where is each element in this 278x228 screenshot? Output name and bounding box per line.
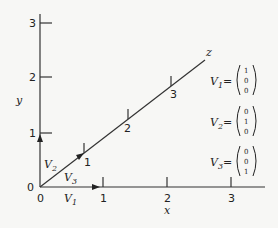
y-axis-label: y (15, 94, 23, 107)
x-tick-3: 3 (228, 192, 235, 205)
z-tick-3: 3 (170, 88, 177, 101)
v1-arrowhead-icon (92, 184, 100, 190)
svg-text:1: 1 (244, 67, 248, 75)
basis-vector-diagram: 1 2 3 x 1 2 3 y 1 2 3 z 0 0 V2 V3 V1 V1=… (0, 0, 278, 228)
svg-text:0: 0 (244, 87, 248, 95)
x-axis-label: x (164, 204, 171, 217)
svg-text:0: 0 (244, 158, 248, 166)
x-tick-1: 1 (100, 192, 107, 205)
y-tick-2: 2 (29, 71, 36, 84)
origin-label-y: 0 (27, 181, 34, 194)
svg-text:0: 0 (244, 148, 248, 156)
v2-arrowhead-icon (37, 134, 43, 142)
svg-text:0: 0 (244, 128, 248, 136)
svg-text:0: 0 (244, 77, 248, 85)
v3-definition: V3= 0 0 1 (210, 146, 256, 176)
svg-text:1: 1 (244, 118, 248, 126)
z-axis (40, 60, 205, 187)
v1-definition: V1= 1 0 0 (210, 65, 256, 95)
svg-text:V1=: V1= (210, 75, 232, 90)
svg-text:V2=: V2= (210, 116, 232, 131)
z-tick-1: 1 (84, 156, 91, 169)
v2-plot-label: V2 (44, 158, 57, 173)
svg-text:V3=: V3= (210, 156, 232, 171)
v1-plot-label: V1 (64, 192, 77, 207)
v3-plot-label: V3 (64, 171, 77, 186)
z-tick-2: 2 (124, 122, 131, 135)
svg-text:0: 0 (244, 108, 248, 116)
svg-text:1: 1 (244, 168, 248, 176)
y-tick-3: 3 (29, 17, 36, 30)
origin-label-x: 0 (37, 192, 44, 205)
y-tick-1: 1 (29, 127, 36, 140)
v2-definition: V2= 0 1 0 (210, 106, 256, 136)
z-axis-label: z (205, 46, 212, 59)
